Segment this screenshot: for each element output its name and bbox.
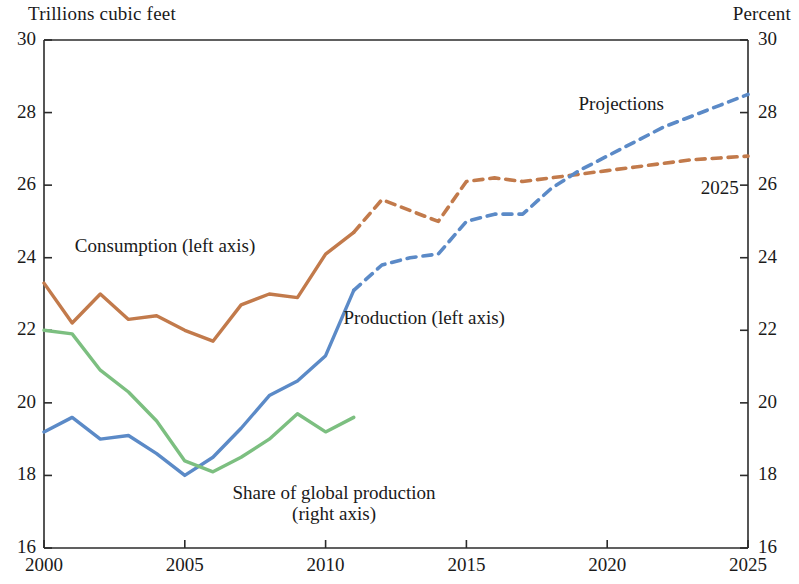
series-line-history-1 bbox=[44, 290, 354, 475]
y-axis-tick-label-right: 30 bbox=[758, 28, 792, 50]
y-axis-tick-label-right: 26 bbox=[758, 173, 792, 195]
y-axis-tick-label-right: 24 bbox=[758, 246, 792, 268]
series-line-history-2 bbox=[44, 330, 354, 472]
y-axis-tick-label-left: 28 bbox=[2, 101, 36, 123]
series-line-projection-0 bbox=[354, 156, 748, 232]
y-axis-tick-label-left: 24 bbox=[2, 246, 36, 268]
data-series bbox=[44, 94, 748, 475]
y-axis-tick-label-right: 28 bbox=[758, 101, 792, 123]
x-axis-tick-label: 2005 bbox=[155, 554, 215, 576]
share-label-line2: (right axis) bbox=[292, 503, 376, 524]
y-axis-tick-label-right: 18 bbox=[758, 463, 792, 485]
x-axis-tick-label: 2025 bbox=[718, 554, 778, 576]
consumption-label: Consumption (left axis) bbox=[75, 235, 255, 256]
y-axis-tick-label-left: 22 bbox=[2, 318, 36, 340]
y-axis-tick-label-right: 20 bbox=[758, 391, 792, 413]
y-axis-tick-label-left: 20 bbox=[2, 391, 36, 413]
x-axis-tick-label: 2015 bbox=[436, 554, 496, 576]
y-axis-tick-label-left: 30 bbox=[2, 28, 36, 50]
y-axis-tick-label-left: 18 bbox=[2, 463, 36, 485]
y-axis-tick-label-left: 26 bbox=[2, 173, 36, 195]
chart-figure: Trillions cubic feet Percent 16161818202… bbox=[0, 0, 799, 584]
x-axis-tick-label: 2020 bbox=[577, 554, 637, 576]
axes bbox=[44, 40, 748, 548]
x-axis-tick-label: 2000 bbox=[14, 554, 74, 576]
series-line-projection-1 bbox=[354, 94, 748, 290]
projections-label: Projections bbox=[579, 93, 665, 114]
share-label-line1: Share of global production bbox=[232, 482, 435, 503]
y-axis-tick-label-right: 22 bbox=[758, 318, 792, 340]
x-axis-tick-label: 2010 bbox=[296, 554, 356, 576]
end-year-label: 2025 bbox=[701, 177, 739, 198]
production-label: Production (left axis) bbox=[343, 307, 504, 328]
